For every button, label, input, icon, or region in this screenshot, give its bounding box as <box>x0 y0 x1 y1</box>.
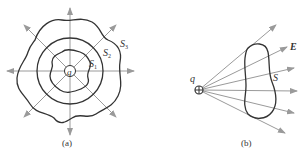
label-s1: S1 <box>89 58 97 70</box>
field-lines-b <box>199 25 297 133</box>
panel-b: q E S (b) <box>190 25 297 148</box>
caption-b: (b) <box>241 138 252 148</box>
surface-label-s: S <box>273 72 278 83</box>
field-label-e: E <box>289 41 297 52</box>
charge-label-b: q <box>190 73 195 84</box>
label-s2: S2 <box>103 47 111 59</box>
diagram-canvas: q S1 S2 S3 (a) q E S (b) <box>0 0 301 154</box>
charge-label-a: q <box>67 67 72 77</box>
caption-a: (a) <box>62 138 72 148</box>
label-s3: S3 <box>120 38 128 50</box>
panel-a: q S1 S2 S3 (a) <box>7 8 134 148</box>
